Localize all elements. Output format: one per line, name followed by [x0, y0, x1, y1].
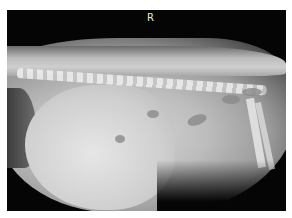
- gas-pocket: [115, 135, 125, 143]
- side-marker: R: [147, 13, 154, 23]
- gas-pocket: [222, 95, 240, 104]
- gas-pocket: [147, 110, 159, 118]
- radiograph-image: R: [7, 10, 286, 211]
- gas-pocket: [242, 88, 262, 96]
- ventral-shadow: [157, 160, 286, 211]
